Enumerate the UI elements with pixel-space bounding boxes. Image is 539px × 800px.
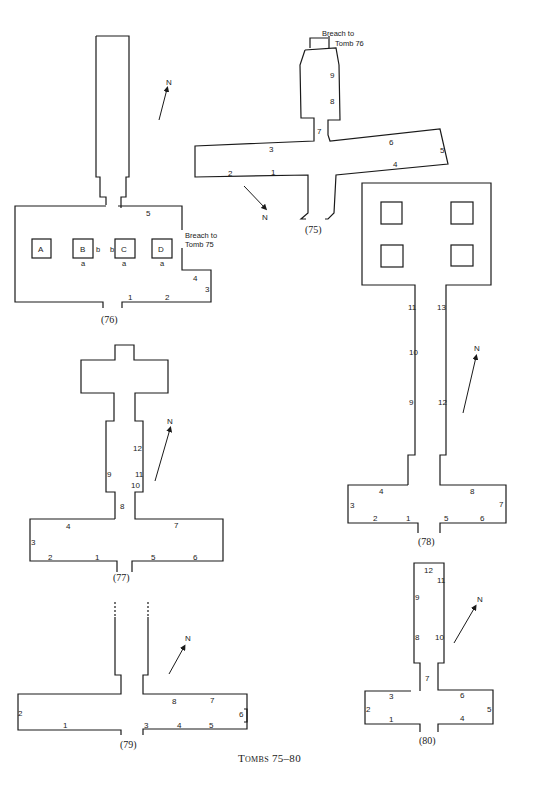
tomb-75-label-8: 8 bbox=[330, 97, 335, 106]
pillar-c-mark-a: a bbox=[122, 259, 127, 268]
tomb-78-label-6: 6 bbox=[480, 514, 485, 523]
tomb-80-label-12: 12 bbox=[424, 566, 433, 575]
tomb-80-label-6: 6 bbox=[460, 691, 465, 700]
tomb-78-label-12: 12 bbox=[438, 398, 447, 407]
compass-79: N bbox=[169, 634, 191, 674]
tomb-80-number: (80) bbox=[419, 735, 436, 747]
tomb-77-label-5: 5 bbox=[151, 553, 156, 562]
tomb-75-label-6: 6 bbox=[389, 138, 394, 147]
tomb-75-label-3: 3 bbox=[269, 145, 274, 154]
tomb-plans-figure: A B C D b b a a a 5 4 3 1 2 Breach to To… bbox=[0, 0, 539, 800]
tomb-76-number: (76) bbox=[101, 314, 118, 326]
tomb-79-outline-left bbox=[18, 617, 121, 735]
tomb-78-pillar bbox=[381, 202, 402, 224]
figure-caption: Tombs 75–80 bbox=[0, 752, 539, 764]
tomb-77-label-9: 9 bbox=[107, 470, 112, 479]
north-arrow-icon bbox=[155, 429, 170, 481]
pillar-a-label: A bbox=[38, 245, 44, 254]
tomb-77-label-11: 11 bbox=[135, 470, 144, 479]
tomb-77-number: (77) bbox=[113, 572, 130, 584]
tomb-78-label-4: 4 bbox=[379, 487, 384, 496]
pillar-c-mark-b: b bbox=[110, 245, 114, 254]
tomb-80-label-11: 11 bbox=[437, 576, 446, 585]
tomb-77-plan: 12 9 11 10 8 4 7 3 2 1 5 6 (77) N bbox=[30, 345, 223, 584]
tomb-75-number: (75) bbox=[305, 224, 322, 236]
compass-76: N bbox=[159, 78, 172, 120]
tomb-76-label-5: 5 bbox=[146, 209, 151, 218]
pillar-c-label: C bbox=[121, 245, 127, 254]
tomb-76-label-2: 2 bbox=[165, 293, 170, 302]
tomb-78-outline-right bbox=[362, 183, 506, 533]
north-arrow-icon bbox=[463, 357, 476, 413]
north-label: N bbox=[477, 595, 483, 604]
tomb-77-label-7: 7 bbox=[174, 521, 179, 530]
tomb-77-label-6: 6 bbox=[193, 553, 198, 562]
tomb-78-label-8: 8 bbox=[470, 487, 475, 496]
tomb-76-label-4: 4 bbox=[193, 274, 198, 283]
tomb-80-label-5: 5 bbox=[487, 705, 492, 714]
tomb-79-plan: 8 7 2 6 1 3 4 5 (79) N bbox=[18, 602, 247, 751]
tomb-77-label-1: 1 bbox=[95, 553, 100, 562]
tomb-75-left-wall bbox=[195, 50, 314, 219]
tomb-77-outline-right bbox=[81, 345, 223, 572]
tomb-78-label-2: 2 bbox=[373, 514, 378, 523]
compass-78: N bbox=[463, 344, 480, 413]
tomb-80-outline-right bbox=[414, 563, 493, 732]
tomb-76-label-3: 3 bbox=[205, 285, 210, 294]
tomb-80-label-1: 1 bbox=[389, 715, 394, 724]
pillar-b-mark-b: b bbox=[96, 245, 100, 254]
tomb-75-breach-note-line1: Breach to bbox=[322, 29, 354, 38]
pillar-b-mark-a: a bbox=[81, 259, 86, 268]
compass-77: N bbox=[155, 417, 173, 481]
tomb-78-label-11: 11 bbox=[408, 303, 417, 312]
tomb-79-label-2: 2 bbox=[18, 709, 23, 718]
tomb-76-label-1: 1 bbox=[128, 293, 133, 302]
tomb-79-corridor-continuation bbox=[115, 602, 148, 617]
tomb-77-label-8: 8 bbox=[120, 502, 125, 511]
tomb-76-hall-left bbox=[15, 206, 106, 308]
tomb-75-label-7: 7 bbox=[317, 127, 322, 136]
tomb-80-label-8: 8 bbox=[415, 633, 420, 642]
north-arrow-icon bbox=[244, 186, 265, 208]
tomb-75-breach-note-line2: Tomb 76 bbox=[335, 39, 364, 48]
tomb-76-corridor-left-wall bbox=[96, 36, 106, 205]
north-arrow-icon bbox=[159, 89, 167, 120]
tomb-80-label-9: 9 bbox=[415, 593, 420, 602]
tomb-75-label-9: 9 bbox=[330, 71, 335, 80]
tomb-78-pillar bbox=[451, 245, 473, 266]
north-label: N bbox=[166, 78, 172, 87]
tomb-75-label-4: 4 bbox=[393, 160, 398, 169]
tomb-80-label-2: 2 bbox=[366, 705, 371, 714]
pillar-d-mark-a: a bbox=[160, 259, 165, 268]
tomb-80-label-4: 4 bbox=[460, 714, 465, 723]
tomb-76-breach-note-line1: Breach to bbox=[185, 231, 217, 240]
tomb-80-label-3: 3 bbox=[389, 692, 394, 701]
compass-75: N bbox=[244, 186, 268, 222]
tomb-77-label-2: 2 bbox=[48, 553, 53, 562]
tomb-75-right-wall bbox=[305, 48, 448, 219]
tomb-78-label-7: 7 bbox=[499, 500, 504, 509]
tomb-78-label-10: 10 bbox=[409, 348, 418, 357]
tomb-76-breach-note-line2: Tomb 75 bbox=[185, 240, 214, 249]
pillar-d-label: D bbox=[158, 245, 164, 254]
tomb-75-label-1: 1 bbox=[271, 168, 276, 177]
tomb-78-pillar bbox=[451, 202, 473, 224]
north-label: N bbox=[185, 634, 191, 643]
tomb-79-niche-6 bbox=[244, 709, 247, 722]
tomb-79-label-5: 5 bbox=[209, 721, 214, 730]
compass-80: N bbox=[454, 595, 483, 643]
tomb-76-plan: A B C D b b a a a 5 4 3 1 2 Breach to To… bbox=[15, 36, 217, 326]
tomb-78-plan: 11 13 10 9 12 4 8 3 7 2 1 5 6 (78) N bbox=[348, 183, 506, 548]
tomb-75-label-5: 5 bbox=[440, 146, 445, 155]
tomb-80-label-7: 7 bbox=[425, 674, 430, 683]
tomb-79-label-1: 1 bbox=[63, 721, 68, 730]
tomb-79-label-4: 4 bbox=[177, 721, 182, 730]
tomb-80-label-10: 10 bbox=[435, 633, 444, 642]
tomb-78-number: (78) bbox=[418, 536, 435, 548]
tomb-78-label-1: 1 bbox=[406, 514, 411, 523]
tomb-75-plan: Breach to Tomb 76 9 8 7 3 6 5 4 2 1 (75)… bbox=[195, 29, 448, 236]
tomb-75-label-2: 2 bbox=[228, 169, 233, 178]
tomb-77-label-10: 10 bbox=[131, 481, 140, 490]
tomb-79-outline-right bbox=[143, 617, 247, 735]
tomb-79-label-7: 7 bbox=[210, 696, 215, 705]
